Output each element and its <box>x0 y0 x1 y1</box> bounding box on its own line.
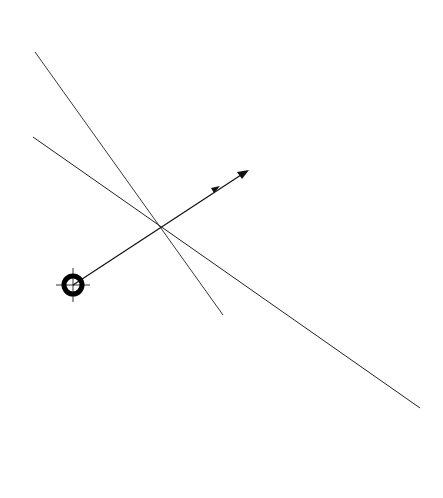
nomogram <box>0 0 443 498</box>
arrow-head-icon <box>237 170 249 179</box>
steep-diagonal-line <box>35 52 223 315</box>
crosshair-circle-icon <box>56 268 90 302</box>
example-arrow-line <box>73 173 244 285</box>
